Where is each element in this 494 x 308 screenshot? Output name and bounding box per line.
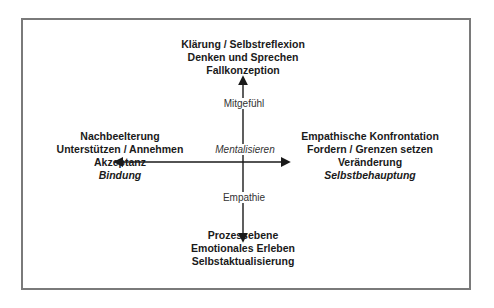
left-block: Nachbeelterung Unterstützen / Annehmen A… [55,130,185,182]
bottom-line-1: Prozessebene [143,229,343,242]
top-line-2: Denken und Sprechen [143,51,343,64]
right-line-4: Selbstbehauptung [280,169,460,182]
left-line-1: Nachbeelterung [55,130,185,143]
left-line-3: Akzeptanz [55,156,185,169]
bottom-line-2: Emotionales Erleben [143,242,343,255]
top-block: Klärung / Selbstreflexion Denken und Spr… [143,38,343,77]
axis-label-up: Mitgefühl [213,98,275,109]
axis-label-down: Empathie [216,192,272,203]
bottom-block: Prozessebene Emotionales Erleben Selbsta… [143,229,343,268]
top-line-1: Klärung / Selbstreflexion [143,38,343,51]
right-line-1: Empathische Konfrontation [280,130,460,143]
left-line-2: Unterstützen / Annehmen [55,143,185,156]
bottom-line-3: Selbstaktualisierung [143,255,343,268]
right-line-2: Fordern / Grenzen setzen [280,143,460,156]
right-line-3: Veränderung [280,156,460,169]
axis-label-center: Mentalisieren [208,144,282,155]
top-line-3: Fallkonzeption [143,64,343,77]
left-line-4: Bindung [55,169,185,182]
right-block: Empathische Konfrontation Fordern / Gren… [280,130,460,182]
